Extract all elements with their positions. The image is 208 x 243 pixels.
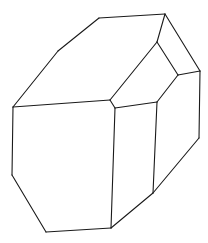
edge-CD — [13, 51, 58, 107]
edge-EG — [157, 42, 178, 75]
edge-DK — [12, 107, 13, 175]
crystal-diagram — [0, 0, 208, 243]
edge-LM — [46, 228, 111, 232]
edge-FO — [199, 71, 200, 138]
edge-JN — [153, 102, 157, 193]
edge-AC — [58, 18, 99, 51]
edge-HI — [110, 100, 115, 108]
edge-HD — [13, 100, 110, 107]
edge-EH — [110, 42, 157, 100]
edge-IM — [111, 108, 115, 228]
edge-IJ — [115, 102, 157, 108]
edge-KL — [12, 175, 46, 232]
edge-GF — [178, 71, 200, 75]
edge-MN — [111, 193, 153, 228]
edge-NO — [153, 138, 199, 193]
edge-GJ — [157, 75, 178, 102]
edge-BE — [157, 14, 165, 42]
edge-AB — [99, 14, 165, 18]
polyhedron-drawing — [0, 0, 208, 243]
